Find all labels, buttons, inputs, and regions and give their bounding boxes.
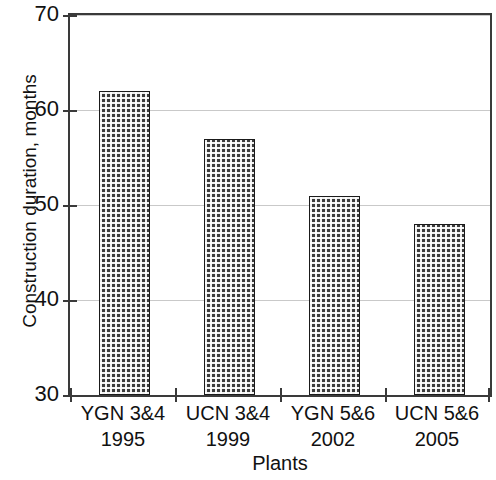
x-category-0-name: YGN 3&4 bbox=[68, 400, 178, 426]
plot-area: 70 60 50 40 30 bbox=[68, 13, 492, 397]
x-category-1-year: 1999 bbox=[173, 426, 283, 452]
y-tick-label-30: 30 bbox=[35, 382, 59, 406]
x-category-3-name: UCN 5&6 bbox=[382, 400, 492, 426]
bar-chart-figure: Construction duration, months 70 60 50 4… bbox=[0, 0, 496, 480]
x-category-2-year: 2002 bbox=[278, 426, 388, 452]
x-category-0: YGN 3&4 1995 bbox=[68, 400, 178, 452]
y-tick-label-60: 60 bbox=[35, 97, 59, 121]
x-axis-title: Plants bbox=[68, 452, 492, 475]
x-category-2: YGN 5&6 2002 bbox=[278, 400, 388, 452]
x-axis-category-labels: YGN 3&4 1995 UCN 3&4 1999 YGN 5&6 2002 U… bbox=[68, 400, 492, 456]
x-category-2-name: YGN 5&6 bbox=[278, 400, 388, 426]
bar-ucn-3-4 bbox=[204, 139, 255, 396]
bar-ygn-5-6 bbox=[309, 196, 360, 396]
x-category-0-year: 1995 bbox=[68, 426, 178, 452]
y-tick-label-70: 70 bbox=[35, 2, 59, 26]
x-category-3: UCN 5&6 2005 bbox=[382, 400, 492, 452]
bar-series bbox=[70, 15, 490, 395]
y-tick-label-40: 40 bbox=[35, 287, 59, 311]
bar-ygn-3-4 bbox=[99, 91, 150, 395]
x-category-3-year: 2005 bbox=[382, 426, 492, 452]
x-category-1: UCN 3&4 1999 bbox=[173, 400, 283, 452]
y-tick-label-50: 50 bbox=[35, 192, 59, 216]
bar-ucn-5-6 bbox=[414, 224, 465, 395]
x-category-1-name: UCN 3&4 bbox=[173, 400, 283, 426]
